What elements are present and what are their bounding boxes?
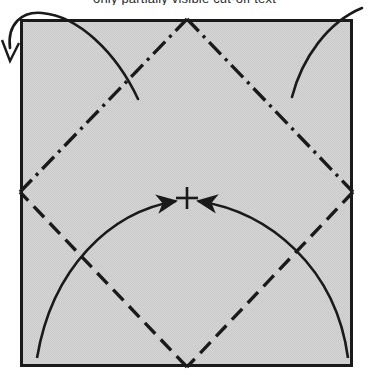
clipped-caption-text: only partially visible cut-off text	[0, 0, 369, 5]
origami-figure: only partially visible cut-off text	[0, 0, 369, 381]
diagram-canvas	[0, 0, 369, 381]
